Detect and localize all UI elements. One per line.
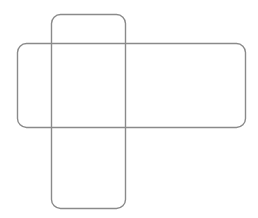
- diagram-canvas: [0, 0, 258, 218]
